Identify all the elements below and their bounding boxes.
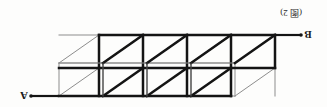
depth-top-1 [191,68,231,96]
depth-bottom-4 [59,35,99,63]
depth-top-0 [235,68,275,96]
figure-drawing: A B (图 2) [0,0,327,107]
depth-top-3 [103,68,143,96]
front-brace-0 [235,35,275,63]
label-b: B [304,29,312,41]
figure-caption: (图 2) [280,8,302,18]
front-brace-3 [103,35,143,63]
depth-top-4 [59,68,99,96]
depth-top-2 [147,68,187,96]
leader-dot-b [299,33,303,37]
leader-dot-a [29,94,33,98]
label-a: A [20,90,28,102]
figure-container: A B (图 2) [0,0,327,107]
front-brace-2 [147,35,187,63]
front-brace-1 [191,35,231,63]
